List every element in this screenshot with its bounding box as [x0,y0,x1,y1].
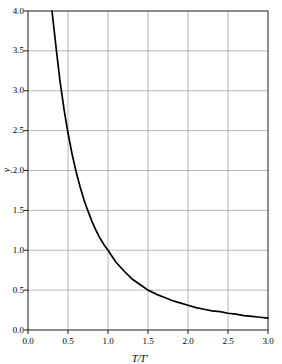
x-tick-label: 1.5 [134,337,162,346]
y-tick-label: 0.5 [2,286,24,295]
tick-marks [24,11,268,334]
y-tick-label: 1.0 [2,246,24,255]
x-axis-label: T/T′ [0,354,280,364]
data-series-curve [52,11,268,318]
x-tick-label: 2.5 [214,337,242,346]
x-tick-label: 2.0 [174,337,202,346]
y-tick-label: 4.0 [2,7,24,16]
y-tick-label: 0.0 [2,326,24,335]
series-line [52,11,268,318]
y-tick-label: 3.0 [2,86,24,95]
y-tick-label: 3.5 [2,46,24,55]
x-tick-label: 3.0 [254,337,282,346]
x-tick-label: 0.0 [14,337,42,346]
x-tick-label: 1.0 [94,337,122,346]
y-axis-label: y [2,163,12,177]
y-tick-label: 2.5 [2,126,24,135]
y-tick-label: 1.5 [2,206,24,215]
x-tick-label: 0.5 [54,337,82,346]
grid-lines [28,11,268,330]
